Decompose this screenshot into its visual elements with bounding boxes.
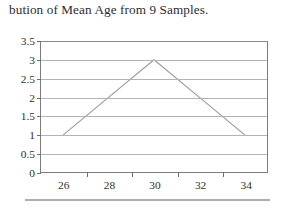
y-axis-tick xyxy=(37,98,41,99)
gridline-y xyxy=(41,135,267,136)
x-axis-tick xyxy=(223,172,224,177)
page-rule xyxy=(25,199,270,201)
gridline-y xyxy=(41,154,267,155)
x-axis-label: 28 xyxy=(104,179,115,191)
y-axis-label: 0.5 xyxy=(21,149,35,160)
x-axis-label: 30 xyxy=(149,179,160,191)
x-axis-label: 34 xyxy=(240,179,251,191)
x-axis-label: 32 xyxy=(195,179,206,191)
y-axis-tick xyxy=(37,41,41,42)
y-axis-tick xyxy=(37,135,41,136)
y-axis-tick xyxy=(37,60,41,61)
y-axis-label: 0 xyxy=(29,168,35,179)
x-axis-tick xyxy=(178,172,179,177)
x-axis-tick xyxy=(87,172,88,177)
gridline-y xyxy=(41,116,267,117)
y-axis-tick xyxy=(37,173,41,174)
gridline-y xyxy=(41,98,267,99)
y-axis-tick xyxy=(37,79,41,80)
y-axis-tick xyxy=(37,154,41,155)
y-axis-label: 3.5 xyxy=(21,36,35,47)
x-axis-label: 26 xyxy=(58,179,69,191)
chart-figure: 00.511.522.533.52628303234 xyxy=(0,28,285,188)
y-axis-tick xyxy=(37,116,41,117)
page-title: bution of Mean Age from 9 Samples. xyxy=(9,1,279,18)
y-axis-label: 3 xyxy=(29,54,35,65)
gridline-y xyxy=(41,41,267,42)
gridline-y xyxy=(41,79,267,80)
gridline-y xyxy=(41,60,267,61)
y-axis-label: 1.5 xyxy=(21,111,35,122)
x-axis-tick xyxy=(132,172,133,177)
plot-area: 00.511.522.533.52628303234 xyxy=(40,41,268,173)
y-axis-label: 2.5 xyxy=(21,73,35,84)
y-axis-label: 1 xyxy=(29,130,35,141)
y-axis-label: 2 xyxy=(29,92,35,103)
